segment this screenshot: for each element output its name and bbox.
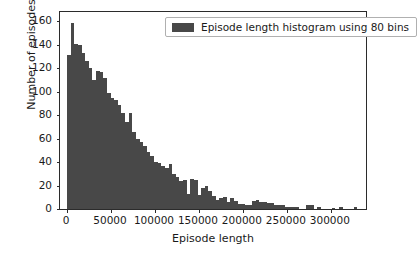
x-axis-tick-label: 250000 — [266, 214, 306, 226]
y-axis-tick — [57, 186, 61, 187]
x-axis-tick-label: 150000 — [178, 214, 218, 226]
x-axis-label: Episode length — [59, 232, 367, 245]
y-axis-tick-label: 100 — [0, 85, 52, 97]
plot-area — [60, 12, 366, 209]
y-axis-tick-label: 160 — [0, 14, 52, 26]
y-axis-tick — [57, 68, 61, 69]
legend-label: Episode length histogram using 80 bins — [201, 21, 409, 33]
x-axis-tick-label: 0 — [63, 214, 70, 226]
histogram-bar — [310, 205, 314, 209]
y-axis-tick — [57, 21, 61, 22]
x-axis-tick — [67, 209, 68, 213]
plot-axes: Episode length histogram using 80 bins — [59, 11, 367, 210]
y-axis-tick-label: 20 — [0, 179, 52, 191]
histogram-bar — [354, 207, 358, 209]
y-axis-tick — [57, 115, 61, 116]
legend-swatch-icon — [172, 23, 194, 32]
x-axis-tick-label: 50000 — [93, 214, 126, 226]
histogram-bar — [317, 207, 321, 209]
histogram-bar — [296, 207, 300, 209]
y-axis-tick-label: 60 — [0, 132, 52, 144]
histogram-bar — [339, 207, 343, 209]
y-axis-tick — [57, 162, 61, 163]
x-axis-tick-label: 100000 — [134, 214, 174, 226]
y-axis-tick-label: 0 — [0, 202, 52, 214]
x-axis-tick-label: 200000 — [222, 214, 262, 226]
x-axis-tick — [287, 209, 288, 213]
y-axis-tick — [57, 209, 61, 210]
histogram-bar — [332, 208, 336, 209]
x-axis-tick — [331, 209, 332, 213]
x-axis-tick-label: 300000 — [310, 214, 350, 226]
y-axis-tick — [57, 92, 61, 93]
y-axis-tick-label: 80 — [0, 108, 52, 120]
x-axis-tick — [111, 209, 112, 213]
chart-legend: Episode length histogram using 80 bins — [165, 17, 417, 37]
y-axis-tick-label: 140 — [0, 38, 52, 50]
y-axis-tick-label: 120 — [0, 61, 52, 73]
x-axis-tick — [243, 209, 244, 213]
x-axis-tick — [199, 209, 200, 213]
x-axis-tick — [155, 209, 156, 213]
y-axis-tick — [57, 45, 61, 46]
y-axis-tick-label: 40 — [0, 155, 52, 167]
y-axis-tick — [57, 139, 61, 140]
